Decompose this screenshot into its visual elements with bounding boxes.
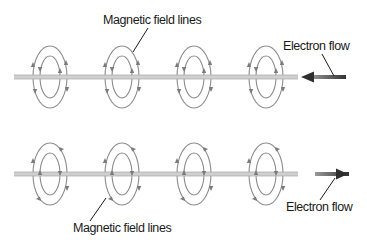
arrow-up-icon — [274, 68, 278, 73]
arrow-up-icon — [58, 68, 62, 73]
arrow-down-icon — [38, 67, 42, 72]
top-flow-leader-line — [322, 54, 334, 76]
arrow-left-icon — [301, 72, 314, 83]
arrow-down-icon — [182, 67, 186, 72]
bottom-field-leader-line — [90, 198, 106, 221]
bottom-flow-label: Electron flow — [286, 200, 354, 214]
magnetic-field-diagram: Magnetic field lines Electron flow — [0, 0, 367, 245]
bottom-field-label: Magnetic field lines — [73, 221, 171, 235]
top-field-label: Magnetic field lines — [103, 13, 201, 27]
arrow-right-icon — [336, 169, 348, 180]
arrow-up-icon — [202, 68, 206, 73]
top-wire — [14, 75, 298, 79]
arrow-down-icon — [105, 89, 109, 94]
top-row: Magnetic field lines Electron flow — [14, 13, 351, 108]
top-flow-label: Electron flow — [283, 39, 351, 53]
arrow-down-icon — [33, 89, 37, 94]
bottom-electron-flow-arrow — [315, 169, 349, 180]
arrow-down-icon — [254, 67, 258, 72]
arrow-down-icon — [249, 89, 253, 94]
top-electron-flow-arrow — [301, 72, 346, 83]
arrow-down-icon — [177, 89, 181, 94]
bottom-row: Magnetic field lines Electron flow — [14, 143, 354, 235]
arrow-down-icon — [110, 67, 114, 72]
arrow-up-icon — [130, 68, 134, 73]
top-field-leader-line — [133, 28, 148, 52]
bottom-flow-leader-line — [320, 178, 335, 200]
